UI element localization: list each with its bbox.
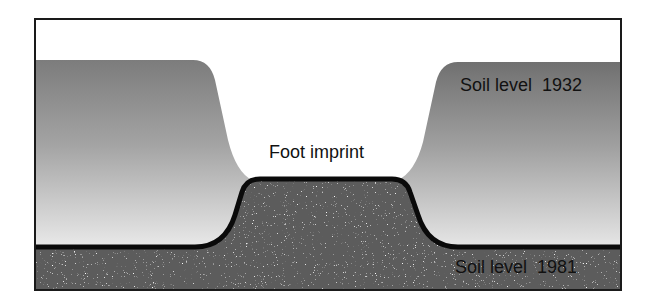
soil-level-1981-label: Soil level 1981 xyxy=(455,257,577,277)
soil-erosion-diagram: Foot imprint Soil level 1932 Soil level … xyxy=(0,0,658,308)
soil-level-1932-label: Soil level 1932 xyxy=(460,75,582,95)
foot-imprint-label: Foot imprint xyxy=(269,142,364,162)
